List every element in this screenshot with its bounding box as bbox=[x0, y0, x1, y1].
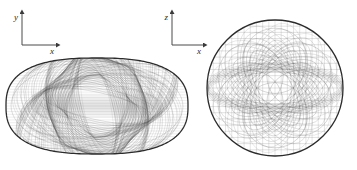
x-axis-label: x bbox=[49, 46, 54, 56]
x-axis-label-right: x bbox=[196, 46, 201, 56]
z-axis-label: z bbox=[163, 12, 168, 22]
figure-root: y x z x bbox=[0, 0, 357, 170]
figure-canvas: y x z x bbox=[0, 0, 357, 170]
y-axis-label: y bbox=[13, 12, 18, 22]
